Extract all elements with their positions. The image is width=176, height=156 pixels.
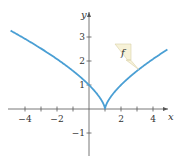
y-tick-label: −1: [72, 128, 85, 138]
x-tick-label: −4: [18, 114, 32, 124]
y-tick-label: 3: [79, 32, 85, 42]
axes: xy: [8, 9, 174, 156]
y-axis-label: y: [80, 9, 87, 20]
x-tick-label: 2: [118, 114, 124, 124]
function-graph: xy −4−224−1123 f: [0, 0, 176, 156]
function-callout-f: f: [115, 44, 139, 69]
x-tick-label: −2: [50, 114, 63, 124]
y-tick-label: 2: [79, 56, 85, 66]
x-tick-label: 4: [150, 114, 156, 124]
x-axis-label: x: [168, 111, 174, 122]
y-axis-arrow-icon: [87, 12, 91, 17]
callout-bubble: [115, 44, 139, 69]
